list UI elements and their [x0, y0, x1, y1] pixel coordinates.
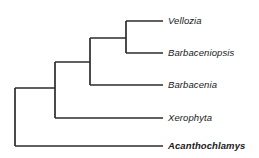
taxon-label-acanthochlamys: Acanthochlamys [168, 141, 245, 151]
tree-branch-lines [0, 0, 259, 158]
taxon-label-barbacenia: Barbacenia [168, 80, 217, 90]
taxon-label-xerophyta: Xerophyta [168, 113, 212, 123]
taxon-label-vellozia: Vellozia [168, 16, 202, 26]
taxon-label-barbaceniopsis: Barbaceniopsis [168, 48, 234, 58]
cladogram-figure: Vellozia Barbaceniopsis Barbacenia Xerop… [0, 0, 259, 158]
